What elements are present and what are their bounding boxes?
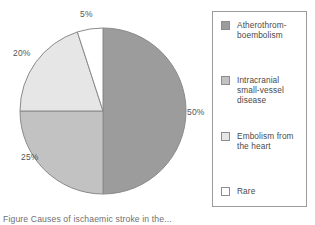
legend-swatch-icon [221,21,230,30]
legend-item-rare[interactable]: Rare [221,186,255,196]
pie-label-20-percent: 20% [13,49,31,58]
legend-item-label: Atherothrom- boembolism [237,20,287,40]
legend-swatch-icon [221,76,230,85]
pie-chart: 50% 25% 20% 5% [0,0,212,208]
pie-slice-atherothromboembolism[interactable] [103,28,186,194]
figure-caption: Figure Causes of ischaemic stroke in the… [3,214,303,224]
pie-chart-svg [0,0,212,208]
legend-item-label: Embolism from the heart [237,131,294,151]
legend-item-label: Rare [237,186,255,196]
pie-chart-figure: 50% 25% 20% 5% Atherothrom- boembolism I… [0,0,315,225]
legend-swatch-icon [221,132,230,141]
legend-item-intracranial-small-vessel-disease[interactable]: Intracranial small-vessel disease [221,75,284,106]
legend: Atherothrom- boembolism Intracranial sma… [212,11,307,207]
legend-swatch-icon [221,187,230,196]
legend-item-embolism-from-the-heart[interactable]: Embolism from the heart [221,131,294,151]
legend-item-atherothromboembolism[interactable]: Atherothrom- boembolism [221,20,287,40]
pie-label-5-percent: 5% [80,10,93,19]
legend-item-label: Intracranial small-vessel disease [237,75,284,106]
pie-label-25-percent: 25% [21,153,39,162]
pie-label-50-percent: 50% [187,108,205,117]
